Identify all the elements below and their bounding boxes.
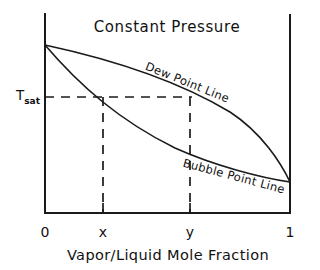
bubble-point-curve [45,45,290,182]
dew-point-curve [45,45,290,182]
x-axis-label: Vapor/Liquid Mole Fraction [67,247,269,263]
y-axis-label-subscript: sat [24,96,40,106]
xtick-label-1: 1 [286,224,295,240]
xtick-label-0: 0 [41,224,50,240]
y-axis-label: Tsat [15,87,41,106]
bubble-point-line-annotation: Bubble Point Line [182,156,287,197]
dew-point-line-annotation: Dew Point Line [143,59,231,105]
xtick-label-y: y [186,224,194,240]
vle-phase-diagram: Constant Pressure Tsat 0 x y 1 Vapor/Liq… [0,0,320,270]
chart-title: Constant Pressure [94,18,240,36]
xtick-label-x: x [99,224,107,240]
